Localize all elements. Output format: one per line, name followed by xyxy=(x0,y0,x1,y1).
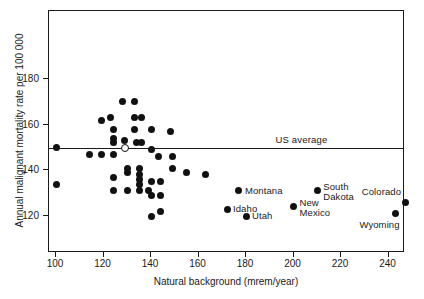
x-tick-mark xyxy=(340,252,341,257)
x-tick-label: 120 xyxy=(94,258,111,269)
data-point xyxy=(131,98,138,105)
data-point xyxy=(119,98,126,105)
point-label: Montana xyxy=(245,186,283,197)
data-point xyxy=(392,210,399,217)
data-point xyxy=(224,206,231,213)
y-axis-title: Annual malignant mortality rate per 100 … xyxy=(14,6,25,256)
x-tick-mark xyxy=(245,252,246,257)
data-point xyxy=(169,165,176,172)
data-point xyxy=(110,126,117,133)
data-point xyxy=(124,187,131,194)
data-point xyxy=(169,153,176,160)
scatter-plot-figure: 120140160180 US average MontanaIdahoUtah… xyxy=(0,0,424,299)
data-point xyxy=(235,187,242,194)
us-average-reference-line xyxy=(49,148,403,149)
data-point xyxy=(157,208,164,215)
data-point xyxy=(290,203,297,210)
data-point xyxy=(148,192,155,199)
data-point xyxy=(110,187,117,194)
x-tick-mark xyxy=(150,252,151,257)
data-point xyxy=(202,171,209,178)
x-tick-mark xyxy=(293,252,294,257)
x-tick-label: 140 xyxy=(142,258,159,269)
data-point xyxy=(155,153,162,160)
data-point xyxy=(402,199,409,206)
data-point xyxy=(157,178,164,185)
data-point xyxy=(167,128,174,135)
data-point xyxy=(148,126,155,133)
data-point xyxy=(148,178,155,185)
x-tick-label: 200 xyxy=(284,258,301,269)
data-point xyxy=(110,151,117,158)
point-label: Colorado xyxy=(362,187,401,198)
data-point xyxy=(86,151,93,158)
data-point xyxy=(148,213,155,220)
x-tick-label: 240 xyxy=(379,258,396,269)
data-point xyxy=(110,139,117,146)
point-label: Utah xyxy=(252,211,272,222)
point-label: Wyoming xyxy=(359,220,399,231)
x-tick-label: 100 xyxy=(47,258,64,269)
data-point xyxy=(314,187,321,194)
us-average-label: US average xyxy=(275,134,327,145)
data-point xyxy=(183,169,190,176)
plot-frame: US average MontanaIdahoUtahNew MexicoSou… xyxy=(48,10,404,252)
x-tick-label: 220 xyxy=(332,258,349,269)
data-point xyxy=(136,187,143,194)
data-point xyxy=(138,139,145,146)
data-point xyxy=(138,114,145,121)
x-tick-mark xyxy=(198,252,199,257)
data-point xyxy=(124,169,131,176)
data-point xyxy=(157,192,164,199)
data-point xyxy=(53,181,60,188)
data-point xyxy=(131,126,138,133)
data-point xyxy=(131,114,138,121)
data-point xyxy=(98,151,105,158)
data-point xyxy=(107,114,114,121)
x-tick-mark xyxy=(388,252,389,257)
plot-area: US average MontanaIdahoUtahNew MexicoSou… xyxy=(49,11,403,251)
x-axis-title: Natural background (mrem/year) xyxy=(48,276,404,287)
x-tick-label: 180 xyxy=(237,258,254,269)
x-tick-mark xyxy=(55,252,56,257)
data-point xyxy=(110,174,117,181)
data-point xyxy=(98,117,105,124)
point-label: South Dakota xyxy=(323,182,354,203)
x-tick-mark xyxy=(103,252,104,257)
x-tick-label: 160 xyxy=(189,258,206,269)
us-average-point xyxy=(121,144,129,152)
